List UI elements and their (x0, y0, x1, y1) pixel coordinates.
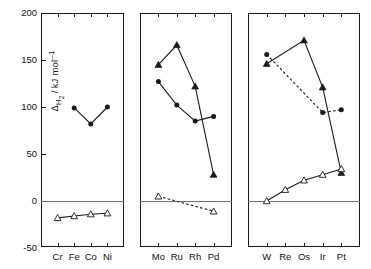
series-line-filled-circle-series (267, 54, 342, 112)
data-point-filled-circle (320, 110, 325, 115)
series-layer-panel-5d (0, 0, 371, 269)
series-line-filled-triangle-series (267, 40, 342, 173)
data-point-open-triangle (338, 166, 345, 172)
series-line-open-triangle-series (267, 169, 342, 201)
data-point-filled-triangle (301, 37, 308, 43)
data-point-open-triangle (263, 198, 270, 204)
data-point-open-triangle (282, 186, 289, 192)
chart-figure: ∆H2 / kJ mol–1 -50050100150200 CrFeCoNiM… (0, 0, 371, 269)
data-point-filled-triangle (319, 84, 326, 90)
data-point-filled-circle (339, 107, 344, 112)
data-point-filled-circle (264, 52, 269, 57)
data-point-filled-triangle (263, 60, 270, 66)
